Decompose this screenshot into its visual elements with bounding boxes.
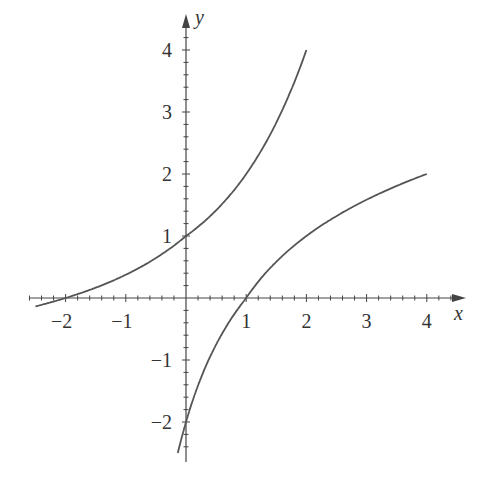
y-tick-label: −2 xyxy=(151,411,172,433)
x-tick-label: 4 xyxy=(422,310,432,332)
x-tick-label: −1 xyxy=(111,310,132,332)
x-tick-label: −2 xyxy=(51,310,72,332)
y-axis-arrow-icon xyxy=(182,14,190,28)
x-axis-label: x xyxy=(453,302,463,324)
chart-figure: −2−11234−2−11234xy xyxy=(0,0,496,484)
x-axis-arrow-icon xyxy=(452,294,466,302)
plot-area: −2−11234−2−11234xy xyxy=(0,0,496,484)
x-tick-label: 2 xyxy=(301,310,311,332)
x-tick-label: 3 xyxy=(362,310,372,332)
x-tick-label: 1 xyxy=(241,310,251,332)
y-axis-label: y xyxy=(193,6,204,29)
y-tick-label: 1 xyxy=(162,225,172,247)
y-tick-label: 3 xyxy=(162,101,172,123)
y-tick-label: 2 xyxy=(162,163,172,185)
y-tick-label: −1 xyxy=(151,349,172,371)
y-tick-label: 4 xyxy=(162,39,172,61)
